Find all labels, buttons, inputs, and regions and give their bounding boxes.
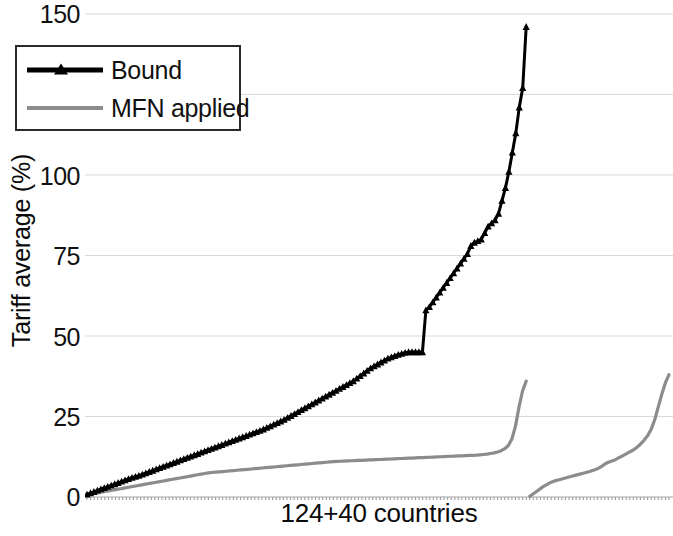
legend-label-mfn: MFN applied xyxy=(111,94,249,123)
y-tick-label-50: 50 xyxy=(24,323,80,352)
y-tick-label-75: 75 xyxy=(24,242,80,271)
series-mfn-applied xyxy=(87,375,669,497)
legend-item-bound: Bound xyxy=(27,52,233,88)
y-tick-label-0: 0 xyxy=(24,483,80,512)
y-tick-label-25: 25 xyxy=(24,403,80,432)
triangle-marker-icon xyxy=(54,63,68,74)
y-tick-label-100: 100 xyxy=(24,162,80,191)
legend-key-bound xyxy=(27,60,103,80)
legend: Bound MFN applied xyxy=(15,45,241,131)
legend-line-mfn-icon xyxy=(27,106,103,110)
legend-item-mfn: MFN applied xyxy=(27,90,233,126)
y-tick-label-150: 150 xyxy=(24,0,80,29)
x-axis-title: 124+40 countries xyxy=(85,498,673,529)
legend-label-bound: Bound xyxy=(111,56,182,85)
legend-key-mfn xyxy=(27,98,103,118)
tariff-average-chart: Tariff average (%) 150 125 100 75 50 25 … xyxy=(0,0,673,536)
